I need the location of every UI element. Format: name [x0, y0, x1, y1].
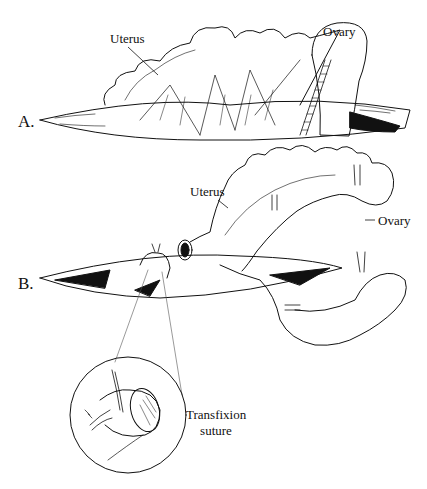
ovary-label-a: Ovary: [323, 25, 356, 38]
inset-magnification: [70, 357, 186, 473]
uterus-label-b: Uterus: [190, 185, 225, 198]
panel-label-a: A.: [18, 113, 35, 130]
transfixion-label-line2: suture: [186, 424, 246, 437]
panel-label-b: B.: [18, 275, 34, 292]
panel-b-drawing: [40, 145, 406, 395]
transfixion-suture-label: Transfixion suture: [186, 408, 246, 437]
ovary-label-b: Ovary: [378, 214, 411, 227]
uterus-label-a: Uterus: [110, 32, 145, 45]
panel-a-drawing: [40, 23, 410, 141]
transfixion-label-line1: Transfixion: [186, 408, 246, 421]
